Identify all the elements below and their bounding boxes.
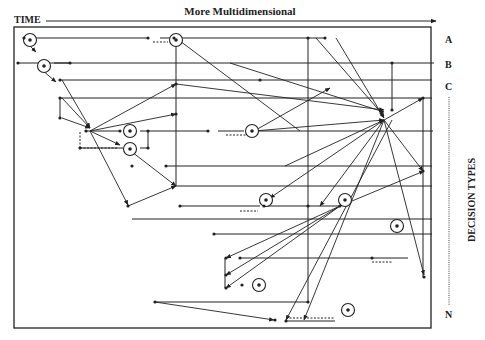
row-label-b: B [445,59,452,70]
decision-node [240,283,243,286]
decision-node [174,112,177,115]
timeline-lines [18,38,434,321]
decision-circle-dot [343,198,347,202]
decision-node [118,129,121,132]
decision-circle-dot [257,283,261,287]
decision-node [421,96,424,99]
decision-node [421,169,424,172]
decision-node [153,300,156,303]
flow-arrow [155,302,274,320]
flow-arrow [226,206,340,288]
flow-arrow [316,38,384,116]
flow-arrow [286,120,392,320]
flow-arrow [384,98,423,120]
row-label-c: C [445,81,452,92]
decision-node [323,36,326,39]
decision-circles [24,34,404,317]
decision-node [146,129,149,132]
flow-arrow [226,206,340,275]
decision-node [68,61,71,64]
decision-node [390,108,393,111]
decision-node [224,273,227,276]
decision-node [284,319,287,322]
row-label-n: N [445,309,453,320]
decision-circle-dot [346,308,350,312]
flow-arrow [176,38,300,131]
decision-node [212,232,215,235]
decision-circle-dot [250,129,254,133]
decision-flow-diagram: TIME More Multidimensional A B C N DECIS… [0,0,485,340]
decision-node [178,204,181,207]
flow-arrow [384,120,423,171]
decision-node [146,146,149,149]
decision-node [130,164,133,167]
decision-circle-dot [42,64,46,68]
decision-node [84,129,87,132]
flow-arrow [320,120,384,206]
decision-node [273,318,276,321]
flow-arrow [132,152,176,186]
decision-node [172,36,175,39]
decision-node [370,256,373,259]
decision-circle-dot [28,38,32,42]
decision-nodes [16,36,425,322]
decision-node [306,204,309,207]
decision-node [422,275,425,278]
decision-node [22,36,25,39]
flow-arrow [128,186,176,206]
decision-node [224,286,227,289]
decision-node [78,146,81,149]
flow-arrow [384,120,424,275]
decision-node [174,82,177,85]
decision-node [262,204,265,207]
decision-node [58,96,61,99]
decision-types-label: DECISION TYPES [466,158,477,242]
decision-node [126,204,129,207]
flow-arrow [336,38,384,118]
decision-node [16,61,19,64]
decision-node [306,36,309,39]
flow-arrow [304,120,384,320]
decision-circle-dot [395,224,399,228]
flow-arrow [176,84,384,110]
decision-circle-dot [128,147,132,151]
decision-node [206,129,209,132]
row-label-a: A [445,34,453,45]
decision-node [58,78,61,81]
decision-node [306,300,309,303]
diagram-frame [14,27,431,328]
decision-circle-dot [264,198,268,202]
decision-node [164,164,167,167]
flow-arrow [62,98,90,128]
flow-arrow [90,84,176,131]
decision-node [238,256,241,259]
decision-node [390,61,393,64]
flow-arrow [90,131,128,205]
time-label: TIME [14,14,41,25]
flow-arrow [90,131,120,145]
decision-node [338,204,341,207]
flow-arrow [62,80,90,128]
decision-circle-dot [128,129,132,133]
decision-node [258,78,261,81]
decision-node [58,116,61,119]
axis-label: More Multidimensional [184,5,295,17]
flow-arrow [340,171,424,206]
flow-arrow [230,63,384,112]
decision-node [224,256,227,259]
decision-node [146,36,149,39]
